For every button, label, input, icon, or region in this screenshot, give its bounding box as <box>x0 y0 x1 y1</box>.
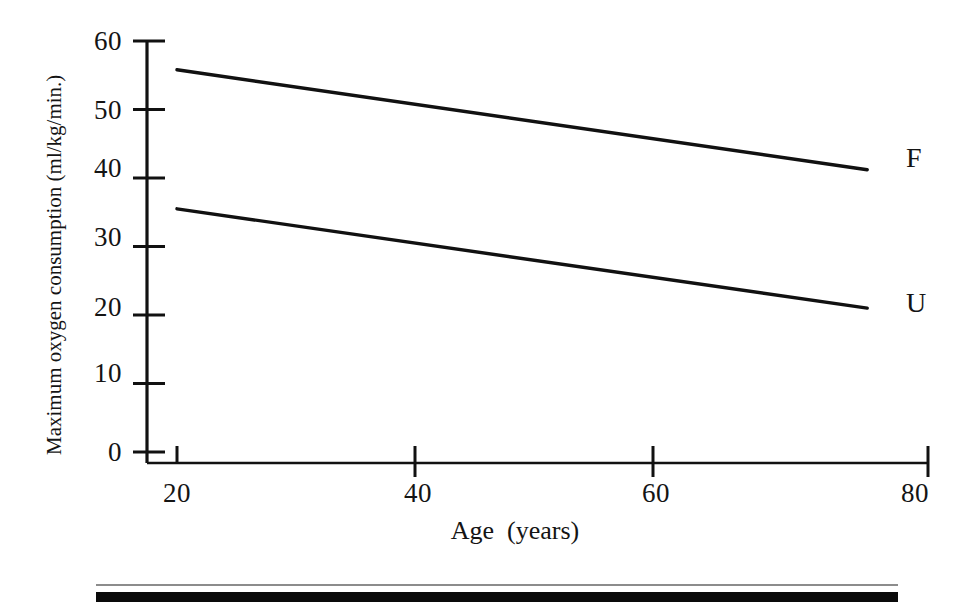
series-line-f <box>177 70 867 170</box>
series-lines <box>177 70 867 308</box>
x-tick-label-20: 20 <box>163 480 191 507</box>
y-axis-ticks <box>133 41 165 452</box>
y-tick-label-0: 0 <box>66 439 122 466</box>
series-line-u <box>177 209 867 308</box>
y-tick-label-10: 10 <box>66 360 122 387</box>
y-tick-label-50: 50 <box>66 97 122 124</box>
axis-lines <box>147 41 928 463</box>
x-axis-title: Age (years) <box>451 518 580 544</box>
y-tick-label-60: 60 <box>66 28 122 55</box>
x-tick-label-80: 80 <box>901 480 929 507</box>
x-axis-ticks <box>177 446 928 477</box>
y-tick-label-30: 30 <box>66 224 122 251</box>
x-tick-label-60: 60 <box>642 480 670 507</box>
figure-container: 60 50 40 30 20 10 0 20 40 60 80 Age (yea… <box>0 0 972 615</box>
series-label-u: U <box>906 289 926 317</box>
footer-rule-thick <box>96 592 898 602</box>
y-axis-title: Maximum oxygen consumption (ml/kg/min.) <box>44 75 65 455</box>
series-label-f: F <box>906 144 922 172</box>
footer-rule-thin <box>96 584 898 586</box>
x-tick-label-40: 40 <box>404 480 432 507</box>
y-tick-label-40: 40 <box>66 155 122 182</box>
y-tick-label-20: 20 <box>66 294 122 321</box>
